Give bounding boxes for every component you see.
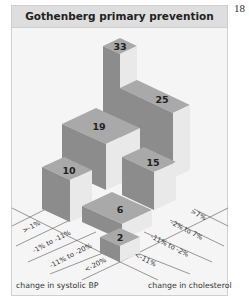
bar-label: 2 — [117, 232, 124, 243]
y-tick: <-11% — [133, 251, 158, 269]
y-tick: >7% — [189, 208, 208, 223]
x-tick: -1% to -11% — [31, 228, 72, 254]
x-tick: <-20% — [83, 256, 108, 274]
bar-label: 10 — [62, 165, 76, 176]
isometric-bar-chart: 33 25 19 15 10 6 2 — [0, 0, 249, 305]
bar-label: 33 — [113, 41, 126, 52]
y-tick: -11% to -2% — [149, 233, 190, 259]
x-tick: >-1% — [21, 219, 42, 235]
bar-label: 15 — [146, 157, 159, 168]
x-axis-title: change in systolic BP — [16, 281, 98, 290]
bar-label: 6 — [117, 204, 124, 215]
bar-label: 19 — [92, 121, 105, 132]
y-axis-title: change in cholesterol — [148, 281, 232, 290]
bar-label: 25 — [155, 94, 168, 105]
